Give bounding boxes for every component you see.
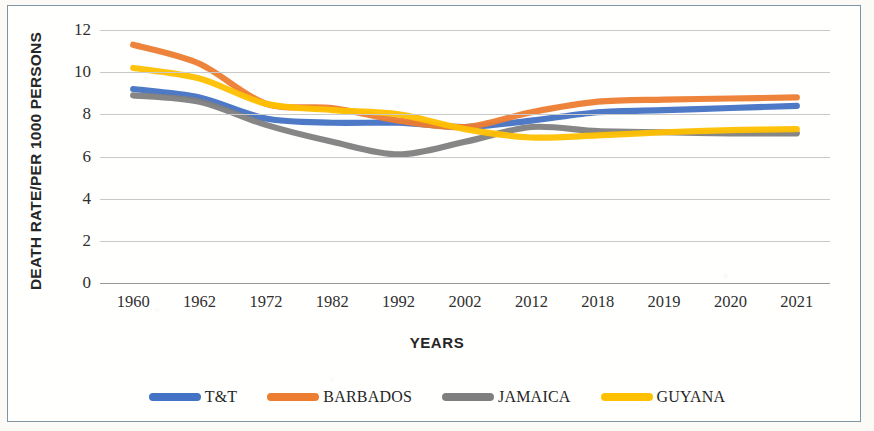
x-axis-tick-label: 1972 xyxy=(249,292,282,312)
legend-swatch-icon xyxy=(442,393,494,401)
legend-item-t-t[interactable]: T&T xyxy=(149,388,238,406)
chart-legend: T&TBARBADOSJAMAICAGUYANA xyxy=(0,388,874,406)
y-axis-tick-label: 2 xyxy=(83,231,92,251)
x-axis-tick-label: 2021 xyxy=(780,292,813,312)
plot-area: 024681012 xyxy=(100,30,830,283)
series-line-guyana xyxy=(133,68,797,138)
x-axis-tick-label: 2012 xyxy=(515,292,548,312)
x-axis-title: YEARS xyxy=(0,334,874,351)
x-axis-tick-labels: 1960196219721982199220022012201820192020… xyxy=(100,292,830,318)
x-axis-line xyxy=(100,283,830,284)
line-chart: DEATH RATE/PER 1000 PERSONS 024681012 19… xyxy=(0,0,874,431)
y-axis-tick-label: 8 xyxy=(83,104,92,124)
gridline xyxy=(100,30,830,31)
y-axis-tick-label: 4 xyxy=(83,189,92,209)
x-axis-tick-label: 2020 xyxy=(714,292,747,312)
gridline xyxy=(100,241,830,242)
x-axis-tick-label: 1960 xyxy=(117,292,150,312)
x-axis-tick-label: 2002 xyxy=(449,292,482,312)
x-axis-tick-label: 2018 xyxy=(581,292,614,312)
legend-label: GUYANA xyxy=(657,388,726,406)
legend-item-jamaica[interactable]: JAMAICA xyxy=(442,388,571,406)
legend-label: T&T xyxy=(205,388,238,406)
legend-swatch-icon xyxy=(149,393,201,401)
legend-label: BARBADOS xyxy=(323,388,412,406)
legend-swatch-icon xyxy=(267,393,319,401)
gridline xyxy=(100,157,830,158)
y-axis-tick-label: 10 xyxy=(74,62,91,82)
gridline xyxy=(100,72,830,73)
x-axis-tick-label: 1962 xyxy=(183,292,216,312)
legend-swatch-icon xyxy=(601,393,653,401)
y-axis-tick-label: 12 xyxy=(74,20,91,40)
x-axis-tick-label: 1982 xyxy=(316,292,349,312)
x-axis-tick-label: 2019 xyxy=(648,292,681,312)
y-axis-title: DEATH RATE/PER 1000 PERSONS xyxy=(27,21,45,301)
legend-label: JAMAICA xyxy=(498,388,571,406)
y-axis-tick-label: 6 xyxy=(83,147,92,167)
gridline xyxy=(100,114,830,115)
y-axis-tick-label: 0 xyxy=(83,273,92,293)
gridline xyxy=(100,199,830,200)
legend-item-guyana[interactable]: GUYANA xyxy=(601,388,726,406)
x-axis-tick-label: 1992 xyxy=(382,292,415,312)
legend-item-barbados[interactable]: BARBADOS xyxy=(267,388,412,406)
